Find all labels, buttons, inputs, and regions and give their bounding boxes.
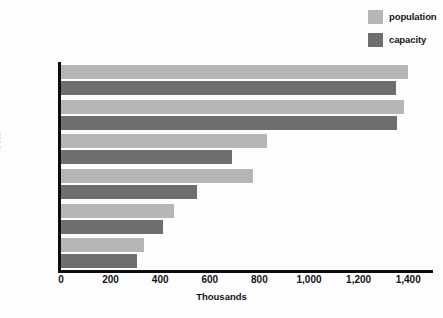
x-tick-label-1000: 1,000 [284,274,334,285]
x-tick-label-0: 0 [36,274,86,285]
x-tick-label-1400: 1,400 [383,274,433,285]
legend-label-population: population [389,11,437,22]
x-tick-label-1200: 1,200 [334,274,384,285]
x-tick-label-600: 600 [185,274,235,285]
x-axis-tick-labels: 02004006008001,0001,2001,400 [0,274,443,288]
legend-item-population: population [368,8,440,25]
y-axis-tick-labels: 201020001995199019851980 [0,62,443,270]
x-axis-line [58,270,433,273]
y-axis-title: Year [0,131,2,150]
x-tick-label-400: 400 [135,274,185,285]
legend-swatch-population [368,10,383,24]
legend-swatch-capacity [368,33,383,47]
chart-legend: population capacity [368,8,440,54]
bar-chart-figure: population capacity 20102000199519901985… [0,0,443,318]
x-tick-label-800: 800 [234,274,284,285]
legend-item-capacity: capacity [368,31,440,48]
legend-label-capacity: capacity [389,34,426,45]
x-tick-label-200: 200 [86,274,136,285]
x-axis-title: Thousands [0,291,443,302]
